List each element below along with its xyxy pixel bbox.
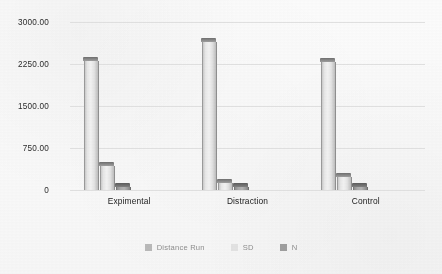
bar-group: Distraction	[188, 22, 306, 190]
bar-top-cap	[83, 57, 98, 61]
bar-top-cap	[233, 183, 248, 187]
x-axis-label: Control	[307, 196, 425, 206]
bar-face	[337, 177, 352, 190]
bar-sd	[100, 166, 113, 190]
legend-label: Distance Run	[157, 243, 205, 252]
bar-face	[353, 187, 368, 190]
bar-top-cap	[201, 38, 216, 42]
bar-n	[353, 187, 366, 190]
y-axis-tick-label: 0	[0, 186, 49, 195]
y-axis-tick-label: 1500.00	[0, 102, 49, 111]
y-axis-tick-label: 750.00	[0, 144, 49, 153]
bar-face	[202, 42, 217, 190]
bar-face	[84, 61, 99, 190]
bar-face	[234, 187, 249, 190]
chart-legend: Distance RunSDN	[0, 243, 442, 252]
bar-sd	[218, 183, 231, 190]
legend-label: N	[292, 243, 298, 252]
bar-top-cap	[217, 179, 232, 183]
bar-face	[116, 187, 131, 190]
bar-top-cap	[99, 162, 114, 166]
legend-swatch-icon	[280, 244, 287, 251]
bar-n	[234, 187, 247, 190]
x-axis-label: Distraction	[188, 196, 306, 206]
bar-chart: 3000.002250.001500.00750.000ExpimentalDi…	[0, 0, 442, 274]
bar-distance-run	[202, 42, 215, 190]
y-axis-tick-label: 3000.00	[0, 18, 49, 27]
legend-swatch-icon	[231, 244, 238, 251]
plot-area: 3000.002250.001500.00750.000ExpimentalDi…	[70, 22, 425, 190]
bar-distance-run	[84, 61, 97, 190]
bar-sd	[337, 177, 350, 190]
bar-top-cap	[336, 173, 351, 177]
bar-face	[321, 62, 336, 190]
y-axis-tick-label: 2250.00	[0, 60, 49, 69]
x-axis-label: Expimental	[70, 196, 188, 206]
bar-distance-run	[321, 62, 334, 190]
bar-top-cap	[352, 183, 367, 187]
legend-label: SD	[243, 243, 254, 252]
bar-group: Control	[307, 22, 425, 190]
legend-item[interactable]: SD	[231, 243, 254, 252]
bar-top-cap	[115, 183, 130, 187]
bar-top-cap	[320, 58, 335, 62]
legend-swatch-icon	[145, 244, 152, 251]
bar-n	[116, 187, 129, 190]
bar-group: Expimental	[70, 22, 188, 190]
bar-face	[100, 166, 115, 190]
gridline	[70, 190, 425, 191]
bar-face	[218, 183, 233, 190]
legend-item[interactable]: Distance Run	[145, 243, 205, 252]
legend-item[interactable]: N	[280, 243, 298, 252]
